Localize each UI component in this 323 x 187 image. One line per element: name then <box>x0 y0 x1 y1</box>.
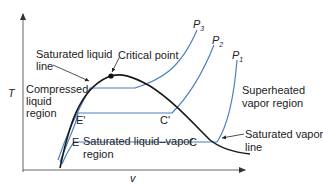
saturated-liquid-line-label: Saturated liquid <box>36 48 112 60</box>
superheated-region-label-2: vapor region <box>242 97 303 109</box>
compressed-region-label-3: region <box>26 107 57 119</box>
saturated-liquid-line-label-2: line <box>36 60 53 72</box>
saturated-mixture-label-2: region <box>83 148 114 160</box>
critical-point-dot <box>108 73 113 78</box>
point-e: E <box>72 136 79 148</box>
saturated-mixture-label-1: Saturated liquid–vapor <box>83 135 193 147</box>
critical-point-label: Critical point <box>118 49 179 61</box>
isobar-label-p2: P2 <box>212 34 223 48</box>
point-c-prime: C' <box>160 114 170 126</box>
point-c: C <box>189 136 197 148</box>
superheated-region-label-1: Superheated <box>242 84 305 96</box>
isobar-label-p1: P1 <box>232 49 243 63</box>
compressed-region-label-1: Compressed <box>26 83 88 95</box>
compressed-region-label-2: liquid <box>26 95 52 107</box>
x-axis-label: v <box>130 172 136 184</box>
saturated-vapor-line-label-1: Saturated vapor <box>245 128 323 140</box>
saturated-vapor-line-label-2: line <box>245 141 262 153</box>
y-axis-label: T <box>8 87 15 99</box>
isobar-label-p3: P3 <box>193 18 204 32</box>
point-e-prime: E' <box>76 114 85 126</box>
